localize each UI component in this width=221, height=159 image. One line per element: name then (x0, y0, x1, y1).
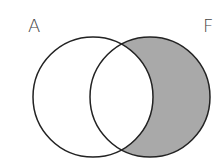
set-f-label: F (203, 15, 213, 36)
set-a-label: A (28, 15, 40, 36)
venn-diagram: A F (0, 0, 221, 159)
